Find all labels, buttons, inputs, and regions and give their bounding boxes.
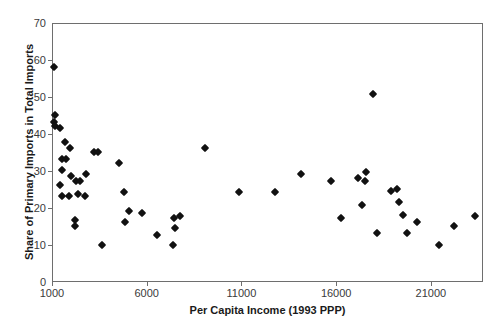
x-axis-tick-label: 21000 [401,287,461,299]
x-axis-tick-mark [241,282,242,286]
plot-area [52,23,483,282]
data-point [98,241,106,249]
data-point [337,214,345,222]
x-axis-title: Per Capita Income (1993 PPP) [52,304,483,316]
y-axis-tick-label: 70 [22,18,46,29]
data-point [449,221,457,229]
x-axis-tick-mark [147,282,148,286]
data-point [153,231,161,239]
y-axis-tick-label: 0 [22,277,46,288]
y-axis-tick-group: 010203040506070 [0,0,46,334]
x-axis-tick-mark [52,282,53,286]
data-point [125,207,133,215]
data-point [81,192,89,200]
data-point [270,188,278,196]
data-point [121,218,129,226]
data-point [327,177,335,185]
data-point [57,166,65,174]
data-point [358,201,366,209]
data-point [176,212,184,220]
x-axis-tick-mark [431,282,432,286]
data-point [56,181,64,189]
data-point [234,188,242,196]
y-axis-tick-label: 20 [22,203,46,214]
data-point [361,168,369,176]
data-point [171,223,179,231]
data-point [94,147,102,155]
x-axis-tick-label: 6000 [117,287,177,299]
y-axis-tick-label: 40 [22,129,46,140]
data-point [66,144,74,152]
data-point [394,197,402,205]
y-axis-tick-label: 30 [22,166,46,177]
data-point [62,155,70,163]
scatter-chart-figure: Share of Primary Imports in Total Import… [0,0,499,334]
x-axis-tick-label: 16000 [306,287,366,299]
data-point [470,212,478,220]
data-point [373,229,381,237]
data-point [51,110,59,118]
data-point [403,229,411,237]
data-point [71,221,79,229]
data-point [82,170,90,178]
x-axis-tick-mark [336,282,337,286]
data-point [169,241,177,249]
data-point [115,159,123,167]
y-axis-tick-label: 50 [22,92,46,103]
data-point [360,177,368,185]
data-point [64,192,72,200]
data-point [435,241,443,249]
data-point [120,188,128,196]
data-point [398,210,406,218]
x-axis-tick-label: 1000 [22,287,82,299]
data-point [297,170,305,178]
x-axis-tick-label: 11000 [211,287,271,299]
data-point [50,62,58,70]
data-point [369,90,377,98]
data-point [412,218,420,226]
y-axis-tick-label: 10 [22,240,46,251]
data-point [200,144,208,152]
y-axis-tick-label: 60 [22,55,46,66]
data-point [138,208,146,216]
